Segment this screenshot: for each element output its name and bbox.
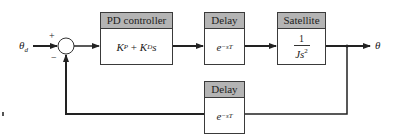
forward-delay-transfer-function: e−sT [205, 29, 244, 64]
satellite-block: Satellite 1 Js2 [277, 12, 326, 65]
pd-controller-block: PD controller KP + KDs [100, 12, 173, 65]
signal-lines [0, 0, 398, 136]
pd-controller-transfer-function: KP + KDs [101, 29, 172, 64]
block-diagram: θd + − θ PD controller KP + KDs Delay e−… [0, 0, 398, 136]
stray-mark [2, 112, 4, 116]
forward-delay-title: Delay [205, 13, 244, 29]
minus-sign: − [51, 52, 57, 63]
satellite-transfer-function: 1 Js2 [278, 29, 325, 64]
forward-delay-block: Delay e−sT [204, 12, 245, 65]
satellite-title: Satellite [278, 13, 325, 29]
feedback-delay-title: Delay [205, 82, 244, 98]
feedback-delay-transfer-function: e−sT [205, 98, 244, 133]
input-label: θd [19, 39, 28, 54]
summing-junction [58, 38, 74, 54]
pd-controller-title: PD controller [101, 13, 172, 29]
plus-sign: + [49, 30, 55, 41]
output-label: θ [375, 39, 380, 51]
feedback-delay-block: Delay e−sT [204, 81, 245, 134]
